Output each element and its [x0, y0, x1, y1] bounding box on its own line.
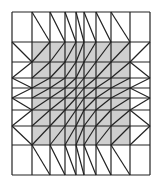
diagonal-edge [65, 12, 76, 42]
diagonal-edge [76, 12, 84, 42]
diagonal-edge [84, 12, 96, 42]
diagonal-edge [76, 145, 84, 175]
diagonal-edge [12, 98, 32, 110]
diagonal-edge [12, 42, 32, 62]
diagonal-edge [130, 78, 150, 88]
diagonal-edge [12, 78, 32, 88]
diagonal-edge [50, 145, 65, 175]
diagonal-edge [111, 12, 130, 42]
diagonal-edge [12, 126, 32, 145]
diagonal-edge [130, 88, 150, 98]
diagonal-edge [84, 145, 96, 175]
diagonal-edge [96, 12, 111, 42]
diagonal-edge [130, 110, 150, 126]
diagonal-edge [130, 98, 150, 110]
diagonal-edge [111, 145, 130, 175]
diagonal-edge [12, 88, 32, 98]
diagonal-edge [50, 12, 65, 42]
diagonal-edge [12, 62, 32, 78]
diagonal-edge [96, 145, 111, 175]
diagonal-edge [130, 62, 150, 78]
diagonal-edge [65, 145, 76, 175]
triangulated-mesh-diagram [0, 0, 162, 187]
diagonal-edge [130, 126, 150, 145]
diagonal-edge [130, 42, 150, 62]
diagonal-edge [12, 110, 32, 126]
diagonal-edge [32, 12, 50, 42]
diagonal-edge [32, 145, 50, 175]
